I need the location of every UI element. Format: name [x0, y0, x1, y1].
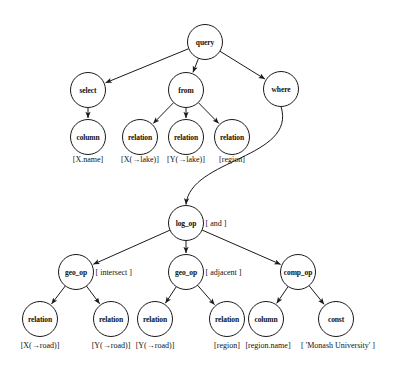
- node-label-from: from: [178, 86, 194, 95]
- edge-from-to-rel3: [198, 103, 218, 124]
- node-label-select: select: [80, 86, 97, 95]
- node-rel2[interactable]: relation: [169, 120, 204, 155]
- leaf-label-lbl-monash: [ 'Monash University' ]: [301, 341, 375, 350]
- node-const1[interactable]: const: [319, 302, 354, 337]
- node-from[interactable]: from: [169, 73, 204, 108]
- edge-logop-to-geoop1: [93, 230, 170, 264]
- node-label-rel2: relation: [174, 133, 199, 142]
- leaf-label-lbl-region-name: [region.name]: [245, 341, 290, 350]
- nodes-layer: queryselectfromwherecolumnrelationrelati…: [23, 25, 354, 337]
- node-label-rel4: relation: [28, 315, 53, 324]
- node-annotation-logop: [ and ]: [206, 219, 227, 228]
- node-label-const1: const: [328, 315, 345, 324]
- node-rel4[interactable]: relation: [23, 302, 58, 337]
- node-label-geoop1: geo_op: [65, 268, 87, 277]
- node-label-rel6: relation: [143, 315, 168, 324]
- node-query[interactable]: query: [188, 25, 223, 60]
- node-label-column2: column: [254, 315, 278, 324]
- node-geoop1[interactable]: geo_op[ intersect ]: [59, 255, 133, 290]
- edge-geoop2-to-rel6: [165, 287, 176, 304]
- node-rel5[interactable]: relation: [94, 302, 129, 337]
- node-logop[interactable]: log_op[ and ]: [169, 206, 227, 241]
- node-where[interactable]: where: [264, 72, 299, 107]
- edge-compop-to-const1: [309, 286, 324, 305]
- node-rel7[interactable]: relation: [210, 302, 245, 337]
- edge-geoop2-to-rel7: [198, 285, 215, 304]
- node-label-rel3: relation: [220, 133, 245, 142]
- node-annotation-geoop1: [ intersect ]: [96, 268, 133, 277]
- node-select[interactable]: select: [71, 73, 106, 108]
- edge-geoop1-to-rel5: [86, 286, 99, 304]
- node-geoop2[interactable]: geo_op[ adjacent ]: [169, 255, 242, 290]
- edge-from-to-rel1: [153, 103, 173, 124]
- diagram-canvas: queryselectfromwherecolumnrelationrelati…: [0, 0, 398, 369]
- leaf-label-lbl-region-2: [region]: [214, 341, 240, 350]
- node-label-rel7: relation: [215, 315, 240, 324]
- node-column1[interactable]: column: [71, 120, 106, 155]
- parse-tree-svg: queryselectfromwherecolumnrelationrelati…: [0, 0, 398, 369]
- node-label-where: where: [272, 85, 292, 94]
- leaf-label-lbl-x-lake: [X(→lake)]: [121, 155, 159, 164]
- node-label-query: query: [196, 38, 215, 47]
- node-label-rel5: relation: [99, 315, 124, 324]
- edge-geoop1-to-rel4: [52, 286, 66, 304]
- leaf-label-lbl-y-road-2: [Y(→road)]: [136, 341, 175, 350]
- leaf-label-lbl-region-1: [region]: [219, 155, 245, 164]
- leaf-label-lbl-y-road-1: [Y(→road)]: [92, 341, 131, 350]
- node-rel1[interactable]: relation: [123, 120, 158, 155]
- node-annotation-geoop2: [ adjacent ]: [206, 268, 242, 277]
- leaf-label-lbl-y-lake: [Y(→lake)]: [167, 155, 205, 164]
- node-compop[interactable]: comp_op: [281, 255, 316, 290]
- edge-query-to-where: [220, 51, 265, 79]
- node-label-column1: column: [76, 133, 100, 142]
- node-column2[interactable]: column: [249, 302, 284, 337]
- node-rel3[interactable]: relation: [215, 120, 250, 155]
- leaf-label-lbl-x-name: [X.name]: [73, 155, 104, 164]
- edge-query-to-from: [193, 58, 199, 72]
- leaf-label-lbl-x-road: [X(→road)]: [21, 341, 60, 350]
- node-label-rel1: relation: [128, 133, 153, 142]
- node-rel6[interactable]: relation: [138, 302, 173, 337]
- node-label-geoop2: geo_op: [175, 268, 197, 277]
- edge-compop-to-column2: [277, 286, 288, 303]
- edge-logop-to-compop: [202, 230, 281, 264]
- node-label-logop: log_op: [176, 219, 197, 228]
- node-label-compop: comp_op: [284, 268, 312, 277]
